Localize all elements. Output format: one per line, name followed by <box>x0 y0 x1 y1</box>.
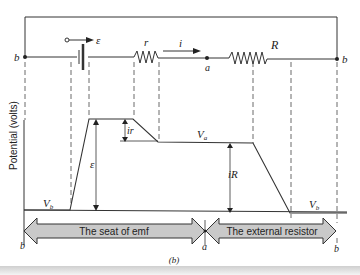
vb-left-label: Vb <box>43 197 54 211</box>
dashed-guides <box>25 62 337 246</box>
iR-drop-label: iR <box>228 168 238 180</box>
external-resistor-label: R <box>270 38 279 52</box>
emf-arrow-icon <box>86 37 94 43</box>
va-label: Va <box>197 128 208 142</box>
y-axis-label: Potential (volts) <box>8 101 19 170</box>
internal-resistor-label: r <box>144 36 149 48</box>
node-a <box>205 56 209 60</box>
seat-of-emf-label: The seat of emf <box>79 226 149 237</box>
battery-icon <box>79 44 83 70</box>
bottom-b-left-label: b <box>20 240 25 251</box>
potential-curve <box>24 119 347 213</box>
potential-diagram: b a b ε r i R Potential (volts) ε i <box>0 0 360 275</box>
emf-rise-label: ε <box>90 158 95 170</box>
bottom-b-right-label: b <box>334 243 339 254</box>
vb-right-label: Vb <box>309 198 320 212</box>
figure-caption: (b) <box>169 255 180 265</box>
bottom-a-label: a <box>202 241 207 252</box>
emf-label: ε <box>96 34 101 46</box>
node-a-label: a <box>205 62 210 73</box>
internal-resistor-icon <box>134 51 158 63</box>
node-b-right-label: b <box>342 53 348 65</box>
current-label: i <box>179 37 182 49</box>
external-resistor-icon <box>229 52 267 64</box>
ir-drop-label: ir <box>127 125 134 136</box>
page-bottom-edge <box>0 266 360 275</box>
node-b-left <box>23 55 27 59</box>
node-b-left-label: b <box>14 51 20 63</box>
current-arrow-icon <box>193 48 201 54</box>
external-resistor-region-label: The external resistor <box>226 226 318 237</box>
node-b-right <box>335 57 339 61</box>
